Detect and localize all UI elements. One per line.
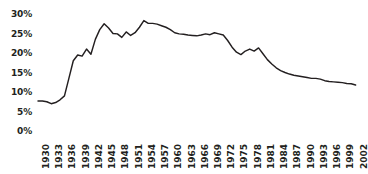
x-tick-label: 1963 <box>188 144 197 169</box>
x-tick-label: 1999 <box>346 144 355 169</box>
x-axis: 1930193319361939194219451948195119541957… <box>0 0 368 174</box>
x-tick-label: 1966 <box>201 144 210 169</box>
x-tick-label: 1990 <box>307 144 316 169</box>
x-tick-label: 1933 <box>55 144 64 169</box>
x-tick-label: 1930 <box>42 144 51 169</box>
x-tick-label: 1939 <box>82 144 91 169</box>
x-tick-label: 1960 <box>174 144 183 169</box>
x-tick-label: 1993 <box>320 144 329 169</box>
x-tick-label: 1969 <box>214 144 223 169</box>
x-tick-label: 1975 <box>240 144 249 169</box>
x-tick-label: 2002 <box>360 144 368 169</box>
x-tick-label: 1984 <box>280 144 289 169</box>
x-tick-label: 1948 <box>121 144 130 169</box>
x-tick-label: 1996 <box>333 144 342 169</box>
x-tick-label: 1981 <box>267 144 276 169</box>
x-tick-label: 1957 <box>161 144 170 169</box>
line-chart: 30%25%20%15%10%5%0% 19301933193619391942… <box>0 0 368 174</box>
x-tick-label: 1951 <box>135 144 144 169</box>
x-tick-label: 1942 <box>95 144 104 169</box>
x-tick-label: 1972 <box>227 144 236 169</box>
x-tick-label: 1936 <box>68 144 77 169</box>
x-tick-label: 1945 <box>108 144 117 169</box>
x-tick-label: 1978 <box>254 144 263 169</box>
x-tick-label: 1987 <box>293 144 302 169</box>
x-tick-label: 1954 <box>148 144 157 169</box>
